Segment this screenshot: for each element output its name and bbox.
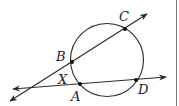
point-b [70, 60, 74, 64]
point-a [78, 82, 82, 86]
circle [71, 24, 144, 97]
point-c [123, 27, 127, 31]
circle-secant-diagram: C B X A D [0, 0, 179, 106]
label-d: D [137, 82, 149, 97]
label-c: C [119, 9, 129, 24]
label-b: B [55, 49, 66, 64]
label-x: X [57, 72, 68, 87]
label-a: A [70, 89, 80, 104]
